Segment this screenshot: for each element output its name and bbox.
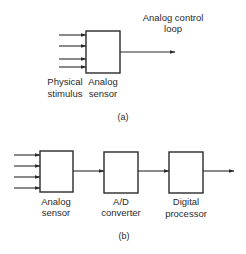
input-arrows-a — [59, 35, 86, 67]
block-2-label-line2: converter — [101, 207, 141, 218]
ad-converter-block — [104, 152, 138, 193]
block-3-label-line2: processor — [165, 208, 207, 219]
block-1-label-line2: sensor — [42, 207, 71, 218]
output-label-line1: Analog control — [143, 12, 204, 23]
input-arrows-b — [14, 155, 40, 188]
signal-chain-diagram: Analog control loop Physical stimulus An… — [0, 0, 246, 254]
digital-processor-block — [169, 152, 203, 193]
diagram-a: Analog control loop Physical stimulus An… — [47, 12, 203, 122]
block-2-label-line1: A/D — [113, 196, 129, 207]
analog-sensor-block-b — [40, 151, 73, 192]
caption-b: (b) — [119, 231, 130, 241]
caption-a: (a) — [118, 112, 129, 122]
block-label-line1: Analog — [88, 76, 118, 87]
output-label-line2: loop — [164, 23, 182, 34]
block-label-line2: sensor — [89, 88, 118, 99]
input-label-line2: stimulus — [48, 88, 83, 99]
diagram-b: Analog sensor A/D converter Digital proc… — [14, 151, 234, 241]
block-3-label-line1: Digital — [173, 196, 199, 207]
block-1-label-line1: Analog — [41, 196, 71, 207]
analog-sensor-block-a — [86, 31, 120, 73]
input-label-line1: Physical — [47, 76, 82, 87]
